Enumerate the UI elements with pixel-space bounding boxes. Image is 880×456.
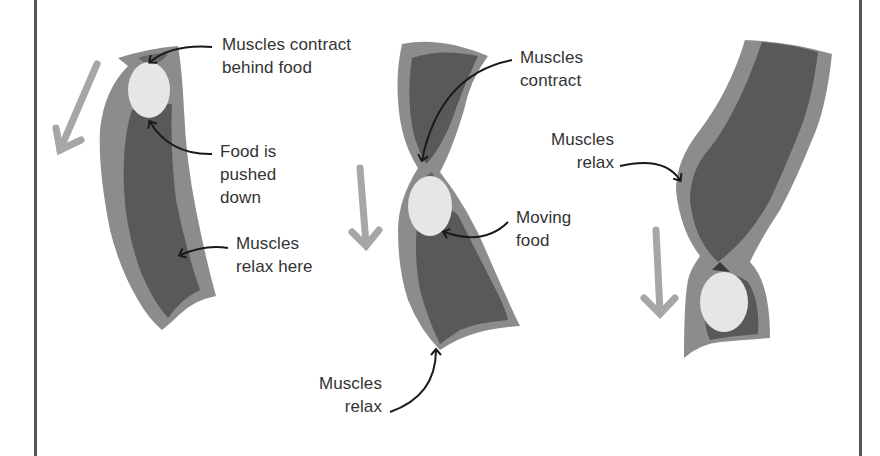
label-muscles-relax-bottom: Muscles relax [306, 372, 382, 418]
food-bolus-1 [128, 62, 170, 118]
panel-2 [352, 42, 520, 412]
label-moving-food: Moving food [516, 206, 571, 252]
label-muscles-contract-behind-food: Muscles contract behind food [222, 33, 351, 79]
motion-arrow-2 [352, 168, 379, 246]
food-bolus-3 [700, 272, 748, 332]
panel-1 [56, 46, 228, 330]
panel-3 [620, 40, 832, 358]
motion-arrow-3 [644, 230, 675, 314]
label-food-is-pushed-down: Food is pushed down [220, 140, 276, 209]
label-muscles-relax-panel3: Muscles relax [536, 128, 614, 174]
pointer-arrow-relax-3 [620, 163, 680, 180]
label-muscles-contract: Muscles contract [520, 46, 583, 92]
motion-arrow-1 [56, 64, 97, 150]
food-bolus-2 [408, 176, 452, 236]
peristalsis-diagram [0, 0, 880, 456]
pointer-arrow-relax [390, 350, 436, 412]
label-muscles-relax-here: Muscles relax here [236, 232, 313, 278]
